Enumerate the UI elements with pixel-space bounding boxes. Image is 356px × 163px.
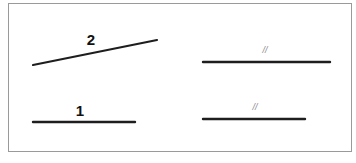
segment-1-label: 1 <box>76 102 84 119</box>
geometry-diagram: 2 1 // // <box>0 0 356 163</box>
segment-2-label: 2 <box>87 31 95 48</box>
diagram-frame <box>9 4 352 152</box>
